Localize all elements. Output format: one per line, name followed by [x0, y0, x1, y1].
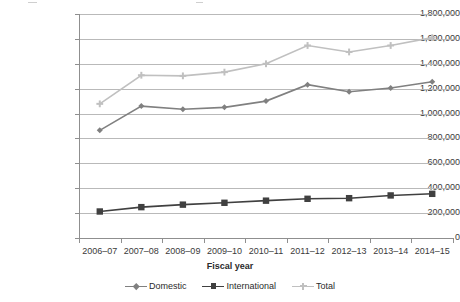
data-point-marker: [346, 195, 352, 201]
legend-label: International: [226, 281, 276, 291]
legend-item-total: Total: [292, 281, 335, 291]
legend-swatch-icon: [292, 282, 314, 291]
data-point-marker: [305, 82, 311, 88]
x-tick-label: 2006–07: [78, 246, 122, 256]
data-point-marker: [387, 192, 393, 198]
chart-legend: DomesticInternationalTotal: [0, 281, 460, 291]
data-point-marker: [180, 106, 186, 112]
data-point-marker: [346, 89, 352, 95]
data-point-marker: [138, 204, 144, 210]
legend-label: Total: [316, 281, 335, 291]
series-total: [96, 34, 435, 107]
data-point-marker: [179, 72, 186, 79]
data-point-marker: [97, 208, 103, 214]
x-tick-label: 2010–11: [244, 246, 288, 256]
data-point-marker: [221, 200, 227, 206]
data-point-marker: [429, 191, 435, 197]
x-tick-label: 2011–12: [286, 246, 330, 256]
x-tick-label: 2009–10: [202, 246, 246, 256]
x-tick-label: 2012–13: [327, 246, 371, 256]
data-point-marker: [304, 196, 310, 202]
x-tick-label: 2013–14: [369, 246, 413, 256]
data-point-marker: [429, 79, 435, 85]
series-line: [100, 38, 432, 104]
data-point-marker: [263, 60, 270, 67]
x-axis-title: Fiscal year: [0, 261, 460, 271]
series-plot: [0, 0, 460, 302]
data-point-marker: [304, 42, 311, 49]
data-point-marker: [263, 98, 269, 104]
line-chart: 0200,000400,000600,000800,0001,000,0001,…: [0, 0, 460, 302]
data-point-marker: [180, 201, 186, 207]
data-point-marker: [387, 42, 394, 49]
legend-swatch-icon: [202, 282, 224, 291]
data-point-marker: [346, 49, 353, 56]
x-tick-label: 2008–09: [161, 246, 205, 256]
series-domestic: [97, 79, 435, 134]
data-point-marker: [221, 104, 227, 110]
legend-label: Domestic: [149, 281, 187, 291]
series-international: [97, 191, 436, 215]
data-point-marker: [263, 197, 269, 203]
x-tick-label: 2014–15: [410, 246, 454, 256]
legend-item-domestic: Domestic: [125, 281, 187, 291]
data-point-marker: [388, 85, 394, 91]
data-point-marker: [221, 69, 228, 76]
legend-swatch-icon: [125, 282, 147, 291]
series-line: [100, 82, 432, 131]
x-tick-label: 2007–08: [119, 246, 163, 256]
legend-item-international: International: [202, 281, 276, 291]
data-point-marker: [429, 34, 436, 41]
